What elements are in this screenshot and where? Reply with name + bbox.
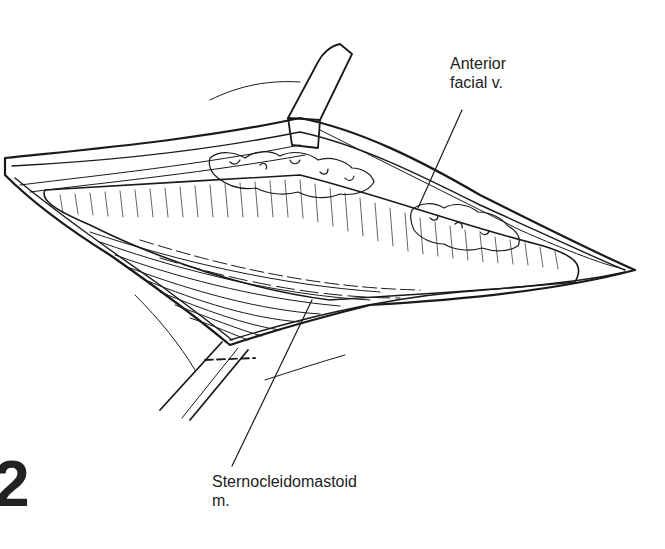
- label-anterior-facial-vein: Anterior facial v.: [450, 54, 506, 92]
- surgical-illustration: [0, 0, 665, 549]
- lower-retractor: [160, 342, 255, 420]
- label-sternocleidomastoid-line1: Sternocleidomastoid: [212, 472, 357, 491]
- label-anterior-facial-vein-line2: facial v.: [450, 73, 506, 92]
- sternocleidomastoid-muscle: [44, 175, 579, 300]
- leader-line-sternocleidomastoid: [232, 300, 312, 466]
- label-anterior-facial-vein-line1: Anterior: [450, 54, 506, 73]
- label-sternocleidomastoid-muscle: Sternocleidomastoid m.: [212, 472, 357, 510]
- wound-outline: [5, 118, 635, 345]
- label-sternocleidomastoid-line2: m.: [212, 491, 357, 510]
- figure-number: 2: [0, 452, 30, 516]
